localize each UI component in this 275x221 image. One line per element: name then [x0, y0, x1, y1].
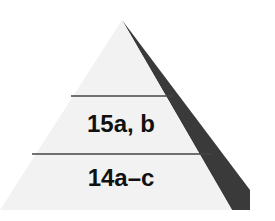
- tier-label-middle: 15a, b: [87, 112, 155, 136]
- pyramid-diagram: 15a, b 14a–c: [0, 0, 275, 221]
- tier-label-bottom: 14a–c: [88, 166, 155, 190]
